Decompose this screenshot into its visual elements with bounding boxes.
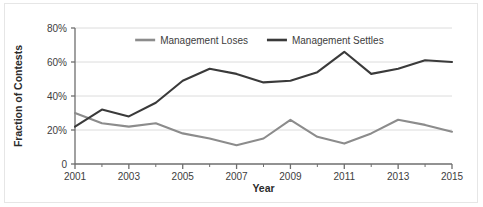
x-tick-label: 2013 <box>387 171 410 182</box>
y-axis-title: Fraction of Contests <box>12 45 24 147</box>
x-axis-title: Year <box>252 182 274 194</box>
x-tick-label: 2001 <box>64 171 87 182</box>
series-line-management-loses <box>75 113 452 145</box>
axis-ticks <box>71 28 452 169</box>
x-tick-label: 2015 <box>441 171 464 182</box>
x-tick-label: 2005 <box>172 171 195 182</box>
line-chart: 020%40%60%80% 20012003200520072009201120… <box>0 0 483 207</box>
x-tick-labels: 20012003200520072009201120132015 <box>64 171 464 182</box>
x-tick-label: 2011 <box>334 171 356 182</box>
series-line-management-settles <box>75 52 452 127</box>
x-tick-label: 2009 <box>279 171 302 182</box>
y-tick-label: 60% <box>47 57 67 68</box>
x-tick-label: 2003 <box>118 171 141 182</box>
y-tick-label: 0 <box>61 159 67 170</box>
y-tick-label: 80% <box>47 23 67 34</box>
chart-legend: Management LosesManagement Settles <box>135 35 384 46</box>
y-tick-labels: 020%40%60%80% <box>47 23 67 170</box>
y-tick-label: 20% <box>47 125 67 136</box>
legend-label: Management Loses <box>160 35 248 46</box>
legend-label: Management Settles <box>292 35 384 46</box>
chart-page: 020%40%60%80% 20012003200520072009201120… <box>0 0 483 207</box>
x-tick-label: 2007 <box>225 171 248 182</box>
data-series <box>75 52 452 146</box>
y-tick-label: 40% <box>47 91 67 102</box>
